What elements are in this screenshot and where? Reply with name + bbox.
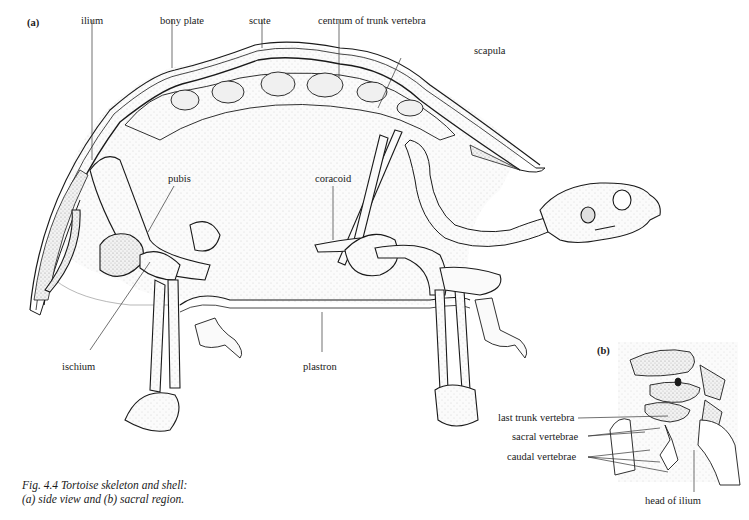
sacral-region-illustration (610, 342, 740, 485)
label-bony-plate: bony plate (160, 16, 204, 27)
panel-a-label: (a) (27, 18, 39, 29)
label-coracoid: coracoid (315, 174, 351, 185)
panel-b-label: (b) (597, 346, 610, 357)
skull (540, 183, 660, 243)
caption-line-2: (a) side view and (b) sacral region. (22, 492, 187, 506)
label-last-trunk-vertebra: last trunk vertebra (498, 413, 574, 424)
label-sacral-vertebrae: sacral vertebrae (512, 432, 578, 443)
figure-caption: Fig. 4.4 Tortoise skeleton and shell: (a… (22, 478, 187, 506)
tortoise-skeleton-figure: (a) (b) ilium bony plate scute centrum o… (0, 0, 749, 520)
tortoise-illustration (0, 0, 749, 520)
label-head-of-ilium: head of ilium (645, 496, 701, 507)
label-pubis: pubis (168, 174, 191, 185)
label-centrum-of-trunk-vertebra: centrum of trunk vertebra (318, 16, 426, 27)
label-plastron: plastron (303, 362, 337, 373)
far-hind-limb (195, 318, 242, 358)
label-scute: scute (249, 16, 271, 27)
caption-line-1: Fig. 4.4 Tortoise skeleton and shell: (22, 478, 187, 492)
far-fore-limb (475, 298, 527, 358)
label-scapula: scapula (474, 46, 506, 57)
label-ischium: ischium (62, 362, 95, 373)
label-ilium: ilium (81, 16, 103, 27)
label-caudal-vertebrae: caudal vertebrae (507, 452, 576, 463)
